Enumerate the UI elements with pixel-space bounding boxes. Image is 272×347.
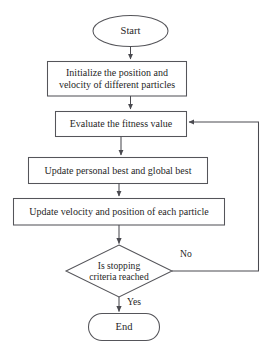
node-end-shape (89, 314, 160, 341)
edge-label-yes: Yes (127, 296, 141, 307)
edge-label-no: No (180, 248, 192, 259)
node-update-best-shape (29, 158, 208, 184)
node-evaluate-shape (56, 112, 187, 137)
node-update-velocity-shape (14, 199, 225, 226)
node-decision-shape (66, 245, 172, 297)
flowchart-canvas: Start Initialize the position and veloci… (0, 0, 272, 347)
node-initialize-shape (48, 62, 187, 97)
node-start-shape (93, 16, 168, 47)
flowchart-shapes-layer (0, 0, 272, 347)
